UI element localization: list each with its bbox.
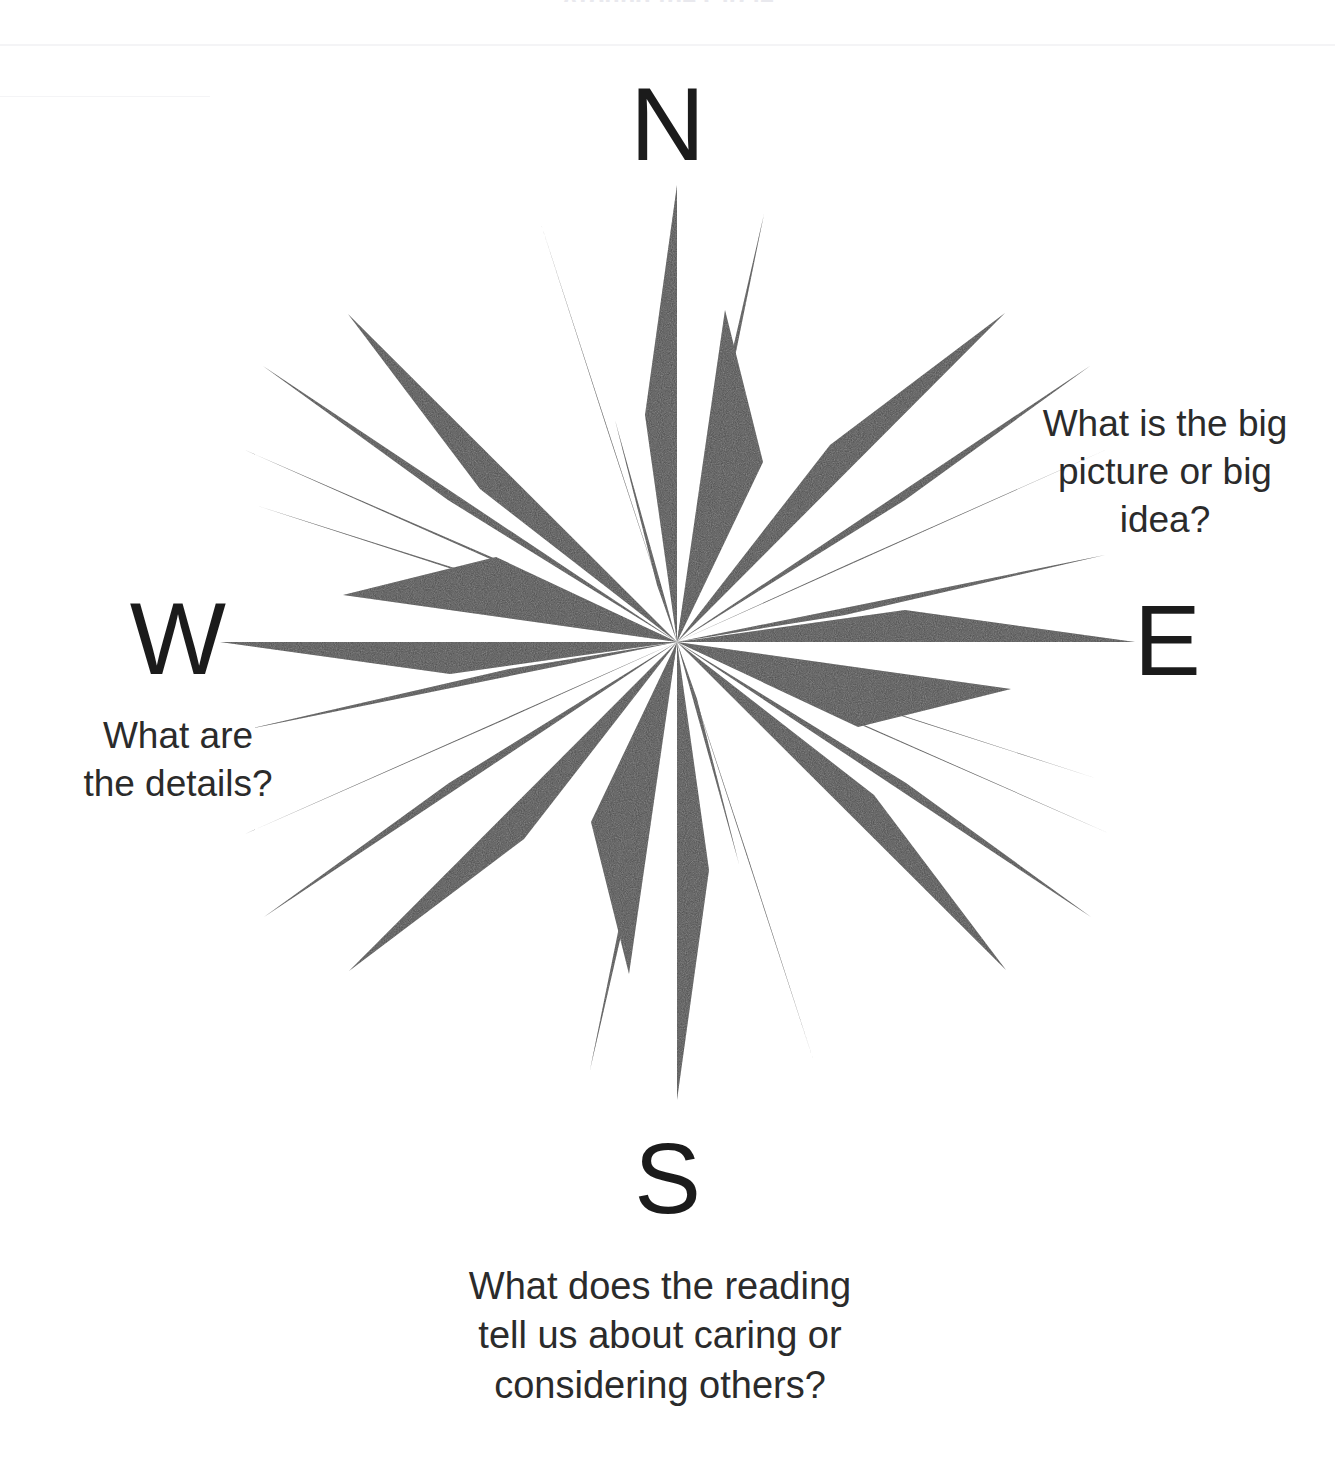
ray-south: [677, 642, 709, 1100]
prompt-west-line-1: What are: [28, 712, 328, 760]
cardinal-label-south: S: [0, 1128, 1335, 1228]
prompt-south: What does the reading tell us about cari…: [330, 1262, 990, 1410]
prompt-west-line-2: the details?: [28, 760, 328, 808]
prompt-east: What is the big picture or big idea?: [1015, 400, 1315, 544]
prompt-east-line-3: idea?: [1015, 496, 1315, 544]
cardinal-label-west: W: [108, 588, 248, 690]
needle-west-northwest: [258, 506, 677, 642]
prompt-south-line-2: tell us about caring or: [330, 1311, 990, 1360]
prompt-east-line-1: What is the big: [1015, 400, 1315, 448]
clipped-page-title: Around the Circle: [0, 0, 1335, 2]
scan-artifact-top: [0, 44, 1335, 46]
compass-rose: [205, 170, 1150, 1115]
ray-east: [677, 610, 1135, 642]
cardinal-label-north: N: [0, 72, 1335, 176]
prompt-south-line-1: What does the reading: [330, 1262, 990, 1311]
page-canvas: Around the Circle: [0, 0, 1335, 1470]
compass-rays: [220, 185, 1135, 1100]
compass-rose-svg: [205, 170, 1150, 1115]
prompt-south-line-3: considering others?: [330, 1361, 990, 1410]
needle-east-southeast: [677, 642, 1095, 778]
accent-east-short: [677, 642, 1108, 833]
prompt-east-line-2: picture or big: [1015, 448, 1315, 496]
ray-north: [645, 185, 677, 642]
cardinal-label-east: E: [1134, 590, 1254, 690]
prompt-west: What are the details?: [28, 712, 328, 808]
ray-west: [220, 642, 677, 674]
